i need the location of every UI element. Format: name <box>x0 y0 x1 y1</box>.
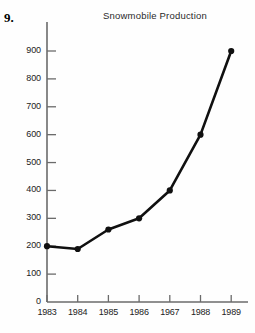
chart-axes <box>47 22 248 302</box>
y-tick-label: 800 <box>7 73 41 83</box>
data-point-marker <box>136 215 142 221</box>
x-tick-label: 1967 <box>153 307 187 317</box>
data-point-marker <box>105 226 111 232</box>
y-tick-label: 500 <box>7 157 41 167</box>
y-tick-label: 900 <box>7 45 41 55</box>
y-tick-label: 600 <box>7 129 41 139</box>
x-tick-label: 1983 <box>30 307 64 317</box>
x-tick-label: 1989 <box>214 307 248 317</box>
y-tick-label: 700 <box>7 101 41 111</box>
y-tick-label: 0 <box>7 296 41 306</box>
y-tick-label: 400 <box>7 184 41 194</box>
x-tick-label: 1984 <box>61 307 95 317</box>
data-point-markers <box>44 48 234 252</box>
x-tick-label: 1988 <box>184 307 218 317</box>
y-tick-label: 100 <box>7 268 41 278</box>
x-tick-label: 1985 <box>91 307 125 317</box>
data-point-marker <box>167 187 173 193</box>
y-tick-label: 200 <box>7 240 41 250</box>
data-point-marker <box>228 48 234 54</box>
data-point-marker <box>75 246 81 252</box>
chart-page: 9. Snowmobile Production 010020030040050… <box>0 0 255 333</box>
chart-tick-marks <box>47 51 231 302</box>
x-tick-label: 1986 <box>122 307 156 317</box>
data-point-marker <box>44 243 50 249</box>
data-point-marker <box>197 132 203 138</box>
y-tick-label: 300 <box>7 212 41 222</box>
